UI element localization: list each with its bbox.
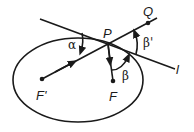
- focus-fprime-point: [40, 77, 45, 82]
- arrow-fprime-p: [55, 63, 73, 73]
- label-beta: β: [122, 69, 129, 83]
- point-q: [146, 21, 151, 26]
- label-l: l: [176, 62, 180, 77]
- label-q: Q: [143, 4, 153, 19]
- angle-beta-prime-arc: [135, 33, 137, 54]
- label-beta-prime: β': [143, 36, 153, 50]
- angle-alpha-arc: [81, 33, 83, 51]
- arrow-p-f: [108, 44, 110, 62]
- label-p: P: [103, 26, 112, 41]
- label-f-prime: F': [36, 88, 47, 103]
- label-f: F: [109, 89, 118, 104]
- ellipse-reflection-diagram: P Q F' F l α β' β: [0, 0, 194, 132]
- label-alpha: α: [68, 38, 76, 52]
- focus-f-point: [111, 79, 116, 84]
